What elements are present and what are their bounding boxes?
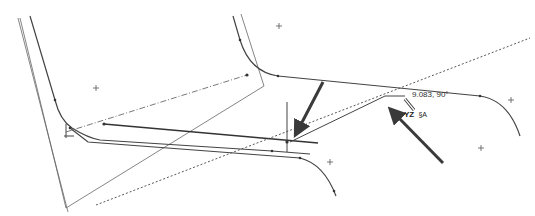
rotation-handle[interactable] — [405, 99, 414, 110]
sketch-profile-bottom[interactable] — [70, 128, 336, 196]
plane-trace-line[interactable] — [96, 38, 530, 205]
sketch-canvas[interactable] — [0, 0, 535, 216]
direction-arrow-2[interactable] — [394, 113, 443, 163]
sketch-line-diagonal[interactable] — [290, 96, 405, 142]
sketch-line-middle[interactable] — [104, 124, 318, 143]
dimension-label[interactable]: 9.083, 90° — [412, 90, 449, 99]
plane-outline[interactable] — [18, 14, 264, 212]
plane-name: YZ — [404, 110, 414, 119]
sketch-profile-left[interactable] — [30, 16, 310, 154]
sketch-relation-icon: §A — [418, 111, 427, 118]
plane-label: YZ §A — [404, 110, 427, 119]
centerline[interactable] — [66, 75, 247, 132]
sketch-profile-top[interactable] — [233, 16, 520, 136]
